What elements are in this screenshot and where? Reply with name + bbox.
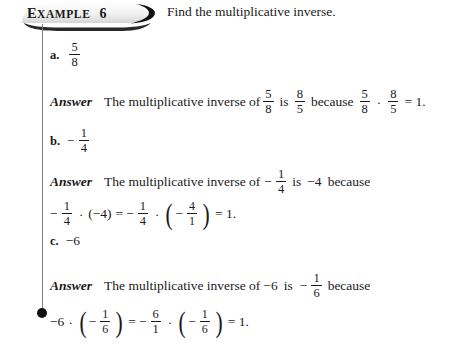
problem-c-value: −6 (66, 234, 80, 248)
problem-b-answer-line1: Answer The multiplicative inverse of − 1… (50, 168, 373, 196)
fraction-denominator: 6 (100, 322, 110, 335)
answer-text-part1: The multiplicative inverse of (104, 279, 260, 293)
example-label-first: E (27, 5, 37, 21)
minus-sign: − (50, 207, 58, 221)
problem-c-answer-line1: Answer The multiplicative inverse of −6 … (50, 272, 373, 300)
fraction-1-4: 1 4 (276, 168, 286, 196)
fraction-numerator: 4 (187, 200, 197, 213)
minus-sign: − (139, 315, 147, 329)
multiplication-dot: · (168, 316, 172, 329)
equation-left-value: −6 (50, 315, 64, 329)
answer-label: Answer (50, 279, 92, 293)
minus-sign: − (89, 315, 97, 329)
fraction-numerator: 1 (200, 308, 210, 321)
minus-sign: − (126, 207, 134, 221)
multiplication-dot: · (377, 96, 381, 109)
fraction-numerator: 5 (263, 88, 273, 102)
fraction-denominator: 5 (295, 102, 305, 116)
fraction-8-5: 8 5 (295, 88, 305, 116)
fraction-denominator: 1 (187, 214, 197, 227)
equation-result: = 1. (404, 95, 425, 109)
fraction-denominator: 6 (311, 286, 321, 300)
fraction-denominator: 4 (79, 141, 89, 155)
problem-a-answer: Answer The multiplicative inverse of 5 8… (50, 88, 429, 116)
problem-c-label: c. (50, 235, 59, 248)
fraction-1-6: 1 6 (100, 308, 110, 335)
example-banner-label: EXAMPLE 6 (27, 4, 107, 22)
equation-result: = 1. (215, 207, 236, 221)
fraction-numerator: 1 (138, 200, 148, 214)
fraction-numerator: 8 (388, 88, 398, 102)
fraction-1-6: 1 6 (200, 308, 210, 335)
fraction-denominator: 8 (263, 102, 273, 116)
fraction-1-4: 1 4 (62, 200, 72, 228)
answer-label: Answer (50, 95, 92, 109)
answer-text-part3: because (328, 279, 371, 293)
answer-text-part2: is (284, 279, 293, 293)
multiplication-dot: · (155, 208, 159, 221)
example-label-rest: XAMPLE (37, 8, 90, 20)
minus-sign: − (175, 207, 183, 221)
parenthesized-fraction: ( − 1 6 ) (78, 309, 125, 336)
multiplication-dot: · (68, 316, 72, 329)
example-label: EXAMPLE (27, 4, 90, 22)
problem-b-label: b. (50, 135, 60, 148)
fraction-numerator: 5 (69, 41, 79, 55)
minus-sign: − (300, 279, 308, 293)
paren-content: − 4 1 (175, 201, 200, 228)
example-banner: EXAMPLE 6 (18, 1, 158, 23)
fraction-1-4: 1 4 (138, 200, 148, 228)
fraction-6-1: 6 1 (151, 308, 161, 336)
parenthesized-fraction: ( − 1 6 ) (177, 309, 224, 336)
answer-text-part2: is (292, 175, 301, 189)
fraction-5-8: 5 8 (360, 88, 370, 116)
inverse-value: −4 (307, 175, 321, 189)
fraction-5-8: 5 8 (263, 88, 273, 116)
answer-text-part1: The multiplicative inverse of (104, 175, 260, 189)
answer-text-part3: because (311, 95, 354, 109)
minus-sign: − (67, 134, 75, 148)
problem-b-expression: b. − 1 4 (50, 127, 92, 155)
fraction-denominator: 6 (200, 322, 210, 335)
left-margin-rule (42, 24, 43, 313)
example-number: 6 (99, 6, 106, 22)
fraction-1-4: 1 4 (79, 127, 89, 155)
left-margin-bullet (37, 308, 47, 318)
problem-c-answer-line2: −6 · ( − 1 6 ) = − 6 1 · ( − 1 6 ) (50, 308, 252, 336)
fraction-4-1: 4 1 (187, 200, 197, 227)
minus-sign: − (264, 175, 272, 189)
fraction-denominator: 4 (62, 214, 72, 228)
fraction-denominator: 8 (360, 102, 370, 116)
fraction-numerator: 1 (276, 168, 286, 182)
fraction-1-6: 1 6 (311, 272, 321, 300)
fraction-numerator: 5 (360, 88, 370, 102)
equals-sign: = (116, 207, 124, 221)
answer-text-part3: because (328, 175, 371, 189)
answer-value: −6 (263, 279, 277, 293)
fraction-denominator: 1 (151, 322, 161, 336)
answer-text-part1: The multiplicative inverse of (104, 95, 260, 109)
fraction-numerator: 1 (100, 308, 110, 321)
minus-sign: − (188, 315, 196, 329)
multiplication-dot: · (79, 208, 83, 221)
fraction-numerator: 1 (62, 200, 72, 214)
fraction-numerator: 1 (311, 272, 321, 286)
fraction-numerator: 1 (79, 127, 89, 141)
fraction-8-5: 8 5 (388, 88, 398, 116)
paren-content: − 1 6 (188, 309, 213, 336)
paren-content: − 1 6 (89, 309, 114, 336)
fraction-numerator: 6 (151, 308, 161, 322)
fraction-numerator: 8 (295, 88, 305, 102)
answer-label: Answer (50, 175, 92, 189)
fraction-denominator: 8 (69, 55, 79, 69)
problem-b-answer-line2: − 1 4 · (−4) = − 1 4 · ( − 4 1 ) = 1. (50, 200, 239, 228)
equation-result: = 1. (228, 315, 249, 329)
prompt-text: Find the multiplicative inverse. (167, 4, 336, 20)
fraction-denominator: 5 (388, 102, 398, 116)
equals-sign: = (128, 315, 136, 329)
factor-negative-four: (−4) (88, 207, 111, 221)
parenthesized-fraction: ( − 4 1 ) (164, 201, 211, 228)
fraction-denominator: 4 (276, 182, 286, 196)
fraction-5-8: 5 8 (69, 41, 79, 69)
problem-c-expression: c. −6 (50, 234, 80, 248)
